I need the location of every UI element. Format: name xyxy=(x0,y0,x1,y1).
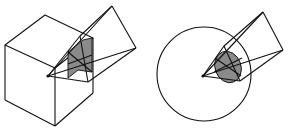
sphere-panel xyxy=(157,12,283,121)
shaded-section xyxy=(68,38,92,78)
center-point xyxy=(201,74,204,77)
cone-shape xyxy=(203,12,283,81)
vertex-point xyxy=(46,74,49,77)
cube-panel xyxy=(5,6,136,126)
diagram-figure xyxy=(0,0,291,131)
